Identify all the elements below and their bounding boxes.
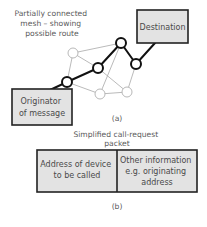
call-request-packet: Address of device to be called Other inf… <box>37 150 197 192</box>
route-node <box>93 63 103 73</box>
route-node <box>62 77 72 87</box>
mesh-node <box>122 87 132 97</box>
figure-label-b: (b) <box>112 202 123 211</box>
diagram-canvas: Partially connected mesh – showing possi… <box>0 0 207 227</box>
figure-label-a: (a) <box>112 114 123 123</box>
originator-box: Originator of message <box>12 89 72 125</box>
destination-label: Destination <box>140 23 186 32</box>
route-node <box>116 38 126 48</box>
mesh-caption: Partially connected mesh – showing possi… <box>14 9 89 38</box>
mesh-node <box>68 48 78 58</box>
destination-box: Destination <box>137 10 188 43</box>
packet-title: Simplified call-request packet <box>73 130 160 148</box>
mesh-node <box>95 89 105 99</box>
route-node <box>131 59 141 69</box>
